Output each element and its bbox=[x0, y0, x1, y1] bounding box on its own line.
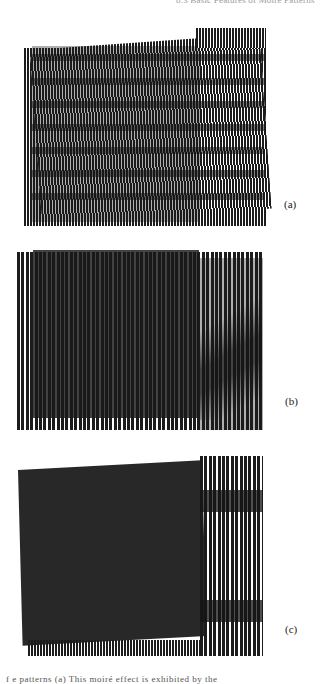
moire-fringe-c-top bbox=[200, 490, 263, 512]
caption-text: f e patterns (a) This moiré effect is ex… bbox=[6, 674, 322, 684]
rotated-dark-grating-c bbox=[18, 460, 207, 645]
moire-fringe-c-bottom bbox=[200, 600, 263, 622]
figure-label-c: (c) bbox=[285, 623, 297, 635]
base-grating-c bbox=[200, 456, 263, 656]
